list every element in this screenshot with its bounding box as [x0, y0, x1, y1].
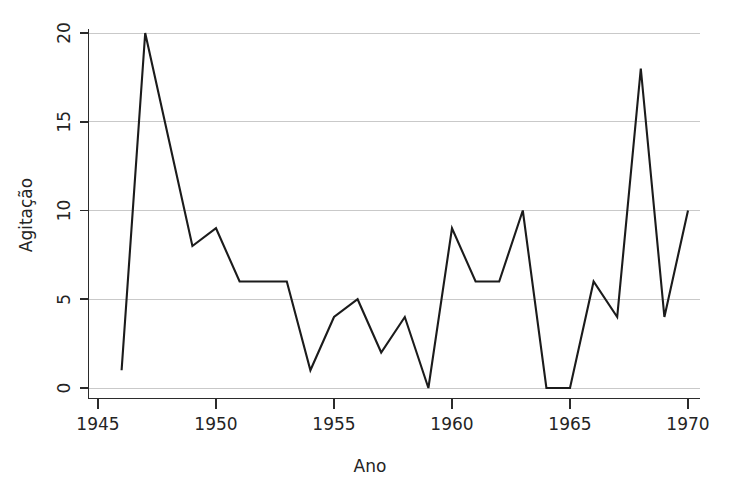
axis-spines	[88, 29, 700, 399]
x-tick-labels: 1945 1950 1955 1960 1965 1970	[76, 414, 709, 434]
x-tick-marks	[98, 398, 688, 409]
x-tick-label-1955: 1955	[312, 414, 355, 434]
x-tick-label-1960: 1960	[430, 414, 473, 434]
x-tick-label-1970: 1970	[666, 414, 709, 434]
y-tick-marks	[80, 33, 88, 388]
y-axis-title: Agitação	[16, 178, 36, 252]
y-tick-label-5: 5	[54, 294, 74, 305]
x-tick-label-1950: 1950	[194, 414, 237, 434]
y-tick-label-10: 10	[54, 200, 74, 222]
chart-canvas: 20 15 10 5 0 1945 1950 1955 1960 1965 19…	[0, 0, 730, 501]
y-tick-labels: 20 15 10 5 0	[54, 22, 74, 393]
line-chart: 20 15 10 5 0 1945 1950 1955 1960 1965 19…	[0, 0, 730, 501]
y-tick-label-20: 20	[54, 22, 74, 44]
x-tick-label-1945: 1945	[76, 414, 119, 434]
y-tick-label-0: 0	[54, 383, 74, 394]
x-axis-title: Ano	[354, 456, 387, 476]
x-tick-label-1965: 1965	[548, 414, 591, 434]
y-tick-label-15: 15	[54, 111, 74, 133]
